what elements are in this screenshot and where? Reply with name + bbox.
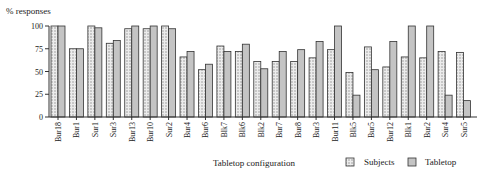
bar-subjects (198, 70, 205, 117)
x-tick-label: Bur3 (312, 122, 321, 138)
bar-tabletop (150, 26, 157, 117)
x-tick-label: Sur5 (460, 122, 469, 137)
bar-chart: % responses 0255075100 Bur18Bur1Sur1Sur3… (0, 0, 485, 180)
x-tick-label: Bur12 (386, 122, 395, 142)
bar-tabletop (187, 51, 194, 117)
bar-subjects (217, 46, 224, 117)
x-axis-title: Tabletop configuration (213, 158, 296, 168)
x-tick-label: Bur18 (54, 122, 63, 142)
x-tick-label: Bur1 (72, 122, 81, 138)
y-tick-label: 25 (35, 90, 43, 99)
x-tick-label: Bur4 (183, 122, 192, 138)
bar-subjects (235, 51, 242, 117)
bar-subjects (69, 49, 76, 117)
bar-tabletop (224, 51, 231, 117)
bar-tabletop (169, 29, 176, 117)
bar-tabletop (132, 26, 139, 117)
x-tick-label: Bur6 (201, 122, 210, 138)
bar-subjects (383, 67, 390, 117)
x-tick-label: Blk2 (257, 122, 266, 138)
bar-tabletop (95, 28, 102, 117)
bar-subjects (143, 29, 150, 117)
bar-tabletop (58, 26, 65, 117)
legend: Subjects Tabletop (346, 157, 457, 167)
bar-subjects (328, 50, 335, 117)
bar-tabletop (298, 50, 305, 117)
y-axis-title: % responses (6, 6, 51, 16)
bar-subjects (457, 52, 464, 117)
bar-tabletop (335, 26, 342, 117)
x-tick-label: Bur11 (331, 122, 340, 142)
legend-tabletop-label: Tabletop (425, 157, 457, 167)
bar-subjects (125, 29, 132, 117)
bar-tabletop (353, 95, 360, 117)
legend-subjects-label: Subjects (364, 157, 395, 167)
bars (51, 26, 471, 117)
bar-tabletop (113, 41, 120, 117)
x-tick-label: Blk6 (238, 122, 247, 138)
x-tick-label: Sur3 (109, 122, 118, 137)
bar-subjects (364, 47, 371, 117)
bar-subjects (51, 26, 58, 117)
bar-tabletop (464, 101, 471, 117)
bar-subjects (291, 61, 298, 117)
bar-tabletop (279, 51, 286, 117)
bar-tabletop (76, 49, 83, 117)
bar-tabletop (445, 95, 452, 117)
x-tick-label: Bur2 (423, 122, 432, 138)
x-tick-label: Bur13 (128, 122, 137, 142)
bar-subjects (438, 51, 445, 117)
bar-subjects (309, 58, 316, 117)
bar-subjects (106, 43, 113, 117)
x-tick-label: Sur4 (441, 122, 450, 137)
bar-subjects (420, 58, 427, 117)
legend-tabletop-swatch (408, 158, 416, 166)
bar-tabletop (427, 26, 434, 117)
x-tick-label: Sur2 (165, 122, 174, 137)
bar-tabletop (242, 44, 249, 117)
bar-tabletop (408, 26, 415, 117)
y-tick-label: 75 (35, 45, 43, 54)
bar-tabletop (371, 70, 378, 117)
y-tick-label: 0 (39, 113, 43, 122)
x-tick-label: Blk5 (349, 122, 358, 138)
bar-tabletop (390, 41, 397, 117)
bar-tabletop (205, 64, 212, 117)
bar-subjects (180, 57, 187, 117)
x-tick-label: Bur5 (367, 122, 376, 138)
bar-subjects (346, 72, 353, 117)
bar-subjects (162, 26, 169, 117)
x-tick-label: Blk7 (220, 122, 229, 138)
x-tick-label: Blk1 (404, 122, 413, 138)
y-tick-label: 50 (35, 68, 43, 77)
x-axis: Bur18Bur1Sur1Sur3Bur13Bur10Sur2Bur4Bur6B… (49, 117, 477, 142)
x-tick-label: Bur8 (294, 122, 303, 138)
legend-subjects-swatch (346, 158, 354, 166)
x-tick-label: Bur7 (275, 122, 284, 138)
bar-subjects (272, 61, 279, 117)
bar-subjects (401, 57, 408, 117)
bar-subjects (88, 26, 95, 117)
y-tick-label: 100 (31, 22, 43, 31)
x-tick-label: Bur10 (146, 122, 155, 142)
bar-tabletop (316, 41, 323, 117)
bar-subjects (254, 61, 261, 117)
y-axis: 0255075100 (31, 22, 49, 122)
bar-tabletop (261, 69, 268, 117)
x-tick-label: Sur1 (91, 122, 100, 137)
